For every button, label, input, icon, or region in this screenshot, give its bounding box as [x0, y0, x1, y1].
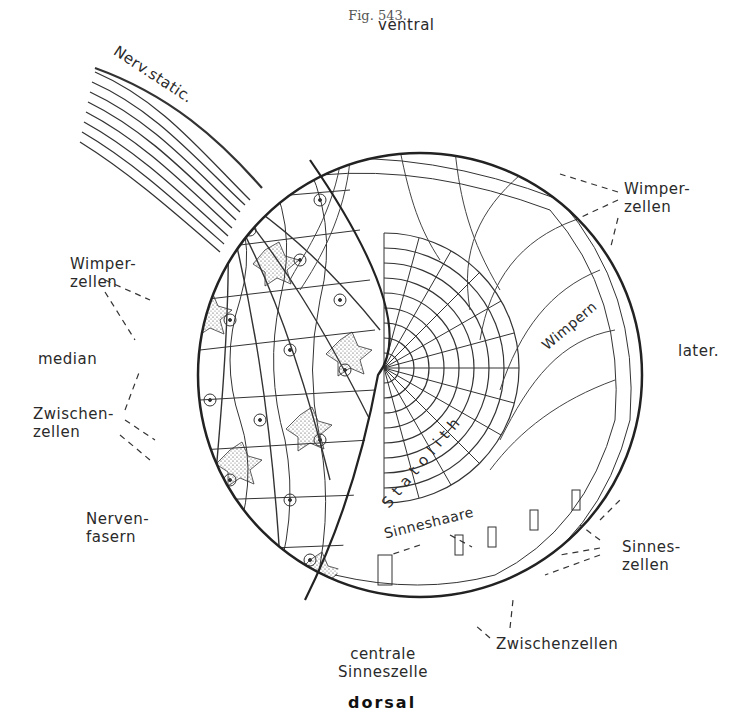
label-sinneszellen: Sinnes- zellen	[622, 538, 681, 574]
label-zwischenzellen-bottom: Zwischenzellen	[496, 635, 618, 653]
sensory-hair-tufts	[378, 490, 580, 585]
label-ventral: ventral	[378, 16, 435, 34]
label-dorsal: dorsal	[348, 694, 416, 712]
label-wimperzellen-left: Wimper- zellen	[70, 255, 136, 291]
label-median: median	[38, 350, 97, 368]
basal-zone	[300, 560, 560, 620]
statocyst-illustration	[0, 0, 755, 722]
dividing-line	[305, 160, 390, 600]
statolith	[384, 233, 519, 503]
label-nervenfasern: Nerven- fasern	[86, 510, 149, 546]
nerve-fibres	[210, 205, 380, 560]
label-wimperzellen-right: Wimper- zellen	[624, 180, 690, 216]
label-centrale-sinneszelle: centrale Sinneszelle	[338, 645, 428, 681]
label-later: later.	[678, 342, 719, 360]
label-zwischenzellen-left: Zwischen- zellen	[33, 405, 114, 441]
